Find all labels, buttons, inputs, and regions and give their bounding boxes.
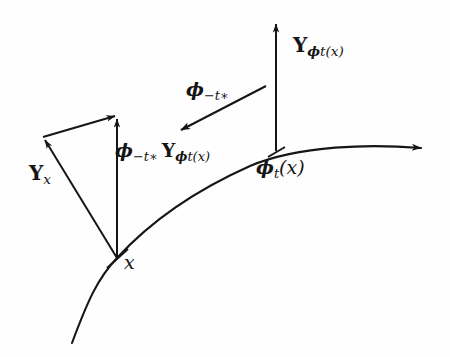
label-push-sub: −t∗ bbox=[133, 149, 158, 164]
label-push-Y-sub-phi: ϕ bbox=[175, 149, 187, 164]
label-Y-sub-phi: ϕ bbox=[307, 43, 320, 59]
manifold-flow-diagram: Yϕt(x) ϕt(x) ϕ−t∗ ϕ−t∗Yϕt(x) Yx x bbox=[0, 0, 450, 357]
label-Y-sub-rest: t(x) bbox=[320, 43, 344, 59]
label-Yx-symbol: Y bbox=[29, 161, 43, 185]
label-push-Y: Y bbox=[162, 139, 176, 161]
connector-arrow bbox=[43, 116, 115, 137]
label-phi-arg: (x) bbox=[279, 156, 305, 178]
label-vector-at-flowed-point: Yϕt(x) bbox=[293, 35, 344, 58]
label-Yx-sub: x bbox=[43, 171, 51, 187]
label-push-phi: ϕ bbox=[115, 139, 133, 161]
label-Y-symbol: Y bbox=[293, 33, 307, 57]
vector-Yx-arrow bbox=[45, 140, 117, 258]
label-pullback-map: ϕ−t∗ bbox=[186, 80, 229, 103]
label-pullback-phi: ϕ bbox=[186, 78, 204, 100]
label-pullback-sub: −t∗ bbox=[204, 88, 229, 103]
label-push-Y-sub-rest: t(x) bbox=[187, 149, 210, 164]
label-pushed-vector: ϕ−t∗Yϕt(x) bbox=[115, 141, 210, 164]
label-base-point: x bbox=[124, 253, 135, 272]
label-flowed-point: ϕt(x) bbox=[256, 158, 305, 181]
label-phi-symbol: ϕ bbox=[256, 156, 274, 178]
integral-curve bbox=[72, 146, 421, 343]
label-vector-at-base-point: Yx bbox=[29, 163, 51, 186]
diagram-geometry bbox=[0, 0, 450, 357]
